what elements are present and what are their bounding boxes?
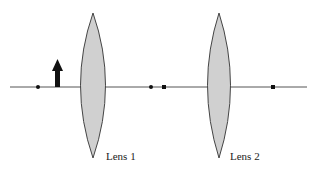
lens-1-label: Lens 1 xyxy=(106,150,136,162)
focal-point-lens2-left xyxy=(162,85,166,89)
object-arrow xyxy=(52,59,63,87)
focal-point-lens1-right xyxy=(149,85,153,89)
lens-1 xyxy=(81,13,106,158)
lens-2 xyxy=(208,13,231,158)
lens-2-label: Lens 2 xyxy=(230,150,260,162)
focal-point-lens2-right xyxy=(271,85,275,89)
optics-diagram: Lens 1 Lens 2 xyxy=(0,0,319,173)
focal-point-lens1-left xyxy=(36,85,40,89)
